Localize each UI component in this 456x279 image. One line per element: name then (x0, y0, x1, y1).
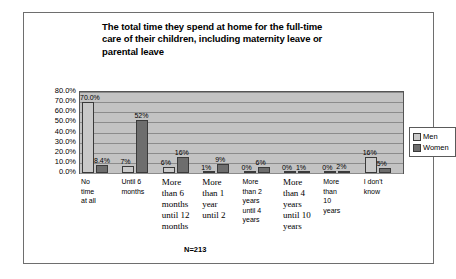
legend-item-men[interactable]: Men (413, 131, 453, 142)
bar-women[interactable] (258, 167, 270, 173)
bar-value-label: 2% (336, 163, 346, 170)
x-axis-category-line: 10 (323, 196, 369, 206)
bar-value-label: 0% (282, 164, 292, 171)
bar-value-label: 16% (363, 149, 377, 156)
bar-group: 0%6% (242, 92, 282, 173)
bar-women[interactable] (338, 171, 350, 173)
y-axis-tick: 0.0% (59, 168, 76, 176)
chart-title-line-3: parental leave (102, 46, 392, 58)
bar-value-label: 52% (134, 112, 148, 119)
legend-swatch-icon (413, 144, 421, 152)
y-axis: 80.0%70.0%60.0%50.0%40.0%30.0%20.0%10.0%… (38, 86, 76, 179)
gridline (80, 173, 403, 174)
bar-women[interactable] (177, 157, 189, 173)
bar-men[interactable] (284, 171, 296, 173)
bar-value-label: 6% (256, 159, 266, 166)
y-axis-tick: 80.0% (55, 87, 76, 95)
bar-value-label: 6% (161, 159, 171, 166)
y-axis-tick: 30.0% (55, 138, 76, 146)
x-axis: Notimeat allUntil 6monthsMorethan 6month… (79, 177, 404, 262)
bar-group: 70.0%8.4% (80, 92, 120, 173)
x-axis-category-line: know (364, 187, 410, 197)
y-axis-tick: 70.0% (55, 97, 76, 105)
chart-frame: The total time they spend at home for th… (23, 12, 434, 264)
legend-swatch-icon (413, 133, 421, 141)
bar-group: 16%5% (363, 92, 403, 173)
chart-title-line-2: care of their children, including matern… (102, 33, 392, 45)
bars-layer: 70.0%8.4%7%52%6%16%1%9%0%6%0%1%0%2%16%5% (80, 92, 403, 173)
bar-group: 0%1% (282, 92, 322, 173)
bar-value-label: 0% (322, 164, 332, 171)
bar-value-label: 8.4% (94, 157, 110, 164)
bar-value-label: 5% (377, 160, 387, 167)
bar-men[interactable] (244, 171, 256, 173)
bar-women[interactable] (217, 164, 229, 173)
legend-label: Women (423, 143, 449, 152)
x-axis-category-line: months (162, 221, 208, 232)
y-axis-tick: 10.0% (55, 158, 76, 166)
bar-group: 6%16% (161, 92, 201, 173)
bar-group: 0%2% (322, 92, 362, 173)
bar-group: 1%9% (201, 92, 241, 173)
plot-area: 70.0%8.4%7%52%6%16%1%9%0%6%0%1%0%2%16%5% (79, 91, 404, 174)
bar-group: 7%52% (120, 92, 160, 173)
bar-women[interactable] (379, 168, 391, 173)
x-axis-category-line: years (283, 221, 329, 232)
x-axis-category-line: years (323, 206, 369, 216)
bar-women[interactable] (136, 120, 148, 173)
bar-value-label: 0% (242, 164, 252, 171)
bar-men[interactable] (122, 166, 134, 173)
bar-men[interactable] (163, 167, 175, 173)
chart-title: The total time they spend at home for th… (102, 21, 392, 58)
bar-value-label: 9% (215, 156, 225, 163)
bar-men[interactable] (82, 102, 94, 173)
bar-value-label: 16% (175, 149, 189, 156)
bar-value-label: 1% (201, 164, 211, 171)
bar-men[interactable] (203, 171, 215, 173)
x-axis-category-label: I don'tknow (364, 177, 410, 196)
bar-women[interactable] (298, 171, 310, 173)
legend-label: Men (423, 132, 438, 141)
y-axis-tick: 20.0% (55, 148, 76, 156)
y-axis-tick: 40.0% (55, 128, 76, 136)
chart-title-line-1: The total time they spend at home for th… (102, 21, 392, 33)
bar-men[interactable] (324, 171, 336, 173)
x-axis-category-line: I don't (364, 177, 410, 187)
chart-legend: MenWomen (409, 127, 456, 157)
bar-value-label: 70.0% (80, 94, 100, 101)
bar-women[interactable] (96, 165, 108, 174)
bar-men[interactable] (365, 157, 377, 173)
x-axis-category-line: at all (81, 196, 127, 206)
sample-size-annotation: N=213 (184, 245, 206, 254)
y-axis-tick: 50.0% (55, 117, 76, 125)
bar-value-label: 7% (120, 158, 130, 165)
legend-item-women[interactable]: Women (413, 142, 453, 153)
bar-value-label: 1% (296, 164, 306, 171)
y-axis-tick: 60.0% (55, 107, 76, 115)
